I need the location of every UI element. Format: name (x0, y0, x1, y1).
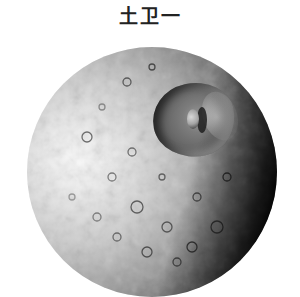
page-title: 土卫一 (0, 4, 300, 28)
moon-image (27, 47, 277, 297)
moon-disk (27, 47, 277, 297)
shadow-terminator (27, 47, 277, 297)
